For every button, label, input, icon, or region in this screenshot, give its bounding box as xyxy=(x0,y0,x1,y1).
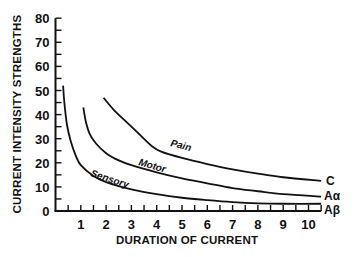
strength-duration-chart: 0102030405060708012345678910 CURRENT INT… xyxy=(0,0,356,257)
pain-curve xyxy=(104,98,322,181)
y-tick-label: 40 xyxy=(35,108,49,123)
a-beta-fiber-label: Aβ xyxy=(324,203,340,217)
x-tick-label: 1 xyxy=(77,217,84,232)
x-tick-label: 3 xyxy=(128,217,135,232)
y-tick-label: 0 xyxy=(42,204,49,219)
pain-curve-label: Pain xyxy=(170,137,193,153)
a-alpha-fiber-label: Aα xyxy=(324,189,341,203)
c-fiber-label: C xyxy=(326,174,335,188)
y-tick-label: 10 xyxy=(35,180,49,195)
x-tick-label: 4 xyxy=(153,217,161,232)
y-tick-label: 60 xyxy=(35,59,49,74)
y-tick-label: 70 xyxy=(35,35,49,50)
x-tick-label: 10 xyxy=(301,217,315,232)
sensory-curve xyxy=(63,86,321,204)
y-tick-label: 30 xyxy=(35,132,49,147)
y-axis-title: CURRENT INTENSITY STRENGTHS xyxy=(11,14,23,213)
x-tick-label: 9 xyxy=(280,217,287,232)
curves xyxy=(63,86,321,204)
y-tick-label: 50 xyxy=(35,84,49,99)
x-axis-title: DURATION OF CURRENT xyxy=(116,234,258,246)
x-tick-label: 8 xyxy=(254,217,261,232)
axes: 0102030405060708012345678910 xyxy=(35,11,321,232)
x-tick-label: 6 xyxy=(204,217,211,232)
x-tick-label: 7 xyxy=(229,217,236,232)
y-tick-label: 20 xyxy=(35,156,49,171)
sensory-curve-label: Sensory xyxy=(89,167,130,190)
x-tick-label: 5 xyxy=(178,217,185,232)
x-tick-label: 2 xyxy=(102,217,109,232)
y-tick-label: 80 xyxy=(35,11,49,26)
